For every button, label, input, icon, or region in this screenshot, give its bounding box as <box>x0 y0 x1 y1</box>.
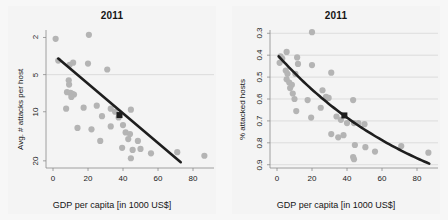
data-point <box>308 115 314 121</box>
data-point <box>74 125 80 131</box>
data-point <box>352 142 358 148</box>
x-tick-label: 0 <box>257 174 297 183</box>
data-point <box>63 106 69 112</box>
data-point <box>137 146 143 152</box>
y-tick-label: 0.3 <box>255 28 264 39</box>
data-point <box>125 136 131 142</box>
y-tick-label: 0.7 <box>255 115 264 126</box>
x-tick-label: 40 <box>103 174 143 183</box>
data-point <box>128 155 134 161</box>
data-point <box>284 49 290 55</box>
data-point <box>344 120 350 126</box>
data-point <box>350 97 356 103</box>
x-tick-label: 40 <box>327 174 367 183</box>
x-tick-label: 20 <box>68 174 108 183</box>
y-tick-label: 5 <box>31 72 40 76</box>
y-tick-label: 0.5 <box>255 72 264 83</box>
data-point <box>291 96 297 102</box>
data-point <box>328 131 334 137</box>
data-point <box>328 70 334 76</box>
data-point <box>361 121 367 127</box>
data-point <box>351 156 357 162</box>
data-point <box>319 87 325 93</box>
data-point <box>68 94 74 100</box>
figure-container: 2011 Avg. # attacks per host GDP per cap… <box>0 0 448 220</box>
data-point <box>130 147 136 153</box>
data-point <box>284 71 290 77</box>
highlight-marker <box>117 112 123 118</box>
right-panel: 2011 % attacked hosts GDP per capita [in… <box>224 0 448 220</box>
data-point <box>88 126 94 132</box>
data-point <box>97 138 103 144</box>
data-point <box>290 90 296 96</box>
x-tick-label: 60 <box>362 174 402 183</box>
data-point <box>201 153 207 159</box>
data-point <box>318 105 324 111</box>
data-point <box>70 60 76 66</box>
y-tick-label: 2 <box>31 35 40 39</box>
y-tick-label: 0.9 <box>255 159 264 170</box>
data-point <box>86 32 92 38</box>
data-point <box>128 107 134 113</box>
data-point <box>372 148 378 154</box>
data-point <box>305 97 311 103</box>
data-point <box>295 61 301 67</box>
highlight-marker <box>341 112 347 118</box>
x-tick-label: 60 <box>138 174 178 183</box>
data-point <box>425 150 431 156</box>
data-point <box>326 95 332 101</box>
y-tick-label: 0.6 <box>255 93 264 104</box>
right-x-axis-title: GDP per capita [in 1000 US$] <box>224 200 448 210</box>
data-point <box>66 82 72 88</box>
left-y-axis-title: Avg. # attacks per host <box>16 69 25 150</box>
data-point <box>108 123 114 129</box>
data-point <box>94 103 100 109</box>
y-tick-label: 0.8 <box>255 137 264 148</box>
data-point <box>81 105 87 111</box>
data-point <box>119 145 125 151</box>
x-tick-label: 0 <box>33 174 73 183</box>
x-tick-label: 80 <box>397 174 437 183</box>
data-point <box>294 54 300 60</box>
data-point <box>362 144 368 150</box>
x-tick-label: 80 <box>173 174 213 183</box>
data-point <box>293 108 299 114</box>
left-panel: 2011 Avg. # attacks per host GDP per cap… <box>0 0 224 220</box>
data-point <box>85 60 91 66</box>
data-point <box>99 113 105 119</box>
data-point <box>174 149 180 155</box>
data-point <box>287 85 293 91</box>
data-point <box>309 62 315 68</box>
left-x-axis-title: GDP per capita [in 1000 US$] <box>0 200 224 210</box>
right-y-axis-title: % attacked hosts <box>238 79 247 140</box>
x-tick-label: 20 <box>292 174 332 183</box>
data-point <box>148 150 154 156</box>
y-tick-label: 0.4 <box>255 50 264 61</box>
data-point <box>335 134 341 140</box>
data-point <box>135 138 141 144</box>
data-point <box>53 36 59 42</box>
y-tick-label: 10 <box>31 107 40 116</box>
data-point <box>309 29 315 35</box>
data-point <box>120 122 126 128</box>
data-point <box>104 66 110 72</box>
y-tick-label: 20 <box>31 156 40 165</box>
